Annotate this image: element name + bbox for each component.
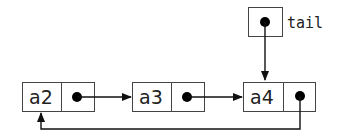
tail-pointer: tail: [249, 8, 324, 81]
node-a2-label: a2: [29, 86, 53, 108]
node-a3-label: a3: [139, 86, 163, 108]
linked-list-diagram: tail a2 a3 a4: [0, 0, 343, 140]
tail-label: tail: [287, 14, 323, 32]
node-a4-label: a4: [250, 86, 274, 108]
node-a4: a4: [244, 83, 316, 112]
